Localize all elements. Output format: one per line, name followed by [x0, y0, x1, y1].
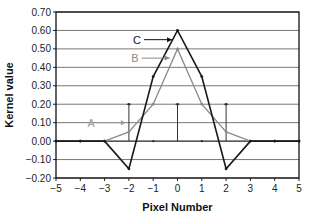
y-tick-label: 0.60 [32, 25, 52, 36]
x-tick-label: 2 [223, 183, 229, 194]
series-group [55, 29, 301, 170]
data-point [225, 103, 227, 105]
x-tick-label: 4 [272, 183, 278, 194]
data-point [127, 167, 130, 170]
y-tick-label: 0.30 [32, 80, 52, 91]
data-point [152, 103, 155, 106]
data-point [176, 103, 178, 105]
data-point [225, 167, 228, 170]
annotation-label-B: B [131, 52, 138, 64]
series-line [56, 30, 299, 168]
y-tick-label: −0.20 [26, 173, 52, 184]
data-point [225, 130, 228, 133]
data-point [201, 140, 203, 142]
annotation-label-C: C [133, 34, 141, 46]
x-axis-label: Pixel Number [142, 201, 213, 213]
x-tick-label: −1 [147, 183, 159, 194]
x-axis-ticks: −5−4−3−2−1012345 [50, 178, 302, 194]
data-point [200, 103, 203, 106]
data-point [249, 140, 252, 143]
grid-lines [56, 12, 299, 178]
data-point [176, 29, 179, 32]
x-tick-label: −5 [50, 183, 62, 194]
annotation-label-A: A [88, 117, 96, 129]
data-point [79, 140, 82, 143]
x-tick-label: 1 [199, 183, 205, 194]
data-point [152, 75, 155, 78]
plot-frame [56, 12, 299, 178]
y-tick-label: 0.20 [32, 99, 52, 110]
data-point [128, 103, 130, 105]
kernel-chart: 0.700.600.500.400.300.200.100.00−0.10−0.… [0, 0, 311, 221]
data-point [103, 140, 106, 143]
x-tick-label: −3 [99, 183, 111, 194]
annotation-arrowhead [165, 56, 170, 61]
data-point [200, 75, 203, 78]
data-point [152, 140, 154, 142]
y-tick-label: 0.50 [32, 43, 52, 54]
x-tick-label: 5 [296, 183, 302, 194]
data-point [127, 130, 130, 133]
annotation-arrowhead [121, 120, 126, 125]
data-point [176, 47, 179, 50]
y-tick-label: −0.10 [26, 154, 52, 165]
annotations: ABC [88, 34, 173, 129]
x-tick-label: 3 [248, 183, 254, 194]
x-tick-label: 0 [175, 183, 181, 194]
x-tick-label: −4 [75, 183, 87, 194]
y-tick-label: 0.00 [32, 136, 52, 147]
y-axis-ticks: 0.700.600.500.400.300.200.100.00−0.10−0.… [26, 7, 56, 184]
y-tick-label: 0.10 [32, 117, 52, 128]
y-axis-label: Kernel value [3, 62, 15, 127]
y-tick-label: 0.40 [32, 62, 52, 73]
x-tick-label: −2 [123, 183, 135, 194]
data-point [273, 140, 276, 143]
y-tick-label: 0.70 [32, 7, 52, 18]
